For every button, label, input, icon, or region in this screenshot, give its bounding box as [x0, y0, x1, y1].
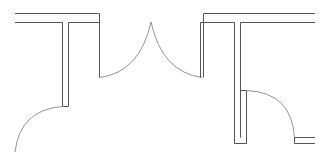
- door-swing-arc: [246, 91, 295, 139]
- door-swing-arc: [15, 107, 62, 153]
- wall-stub-right: [295, 138, 316, 144]
- wall-right-segment: [201, 14, 316, 144]
- floor-plan-diagram: [0, 0, 324, 161]
- door-swing-arc-left: [100, 22, 151, 78]
- wall-left-segment: [15, 14, 100, 107]
- double-door: [100, 22, 202, 78]
- single-door-right: [246, 91, 315, 144]
- single-door-left: [15, 107, 62, 153]
- door-swing-arc-right: [151, 22, 202, 78]
